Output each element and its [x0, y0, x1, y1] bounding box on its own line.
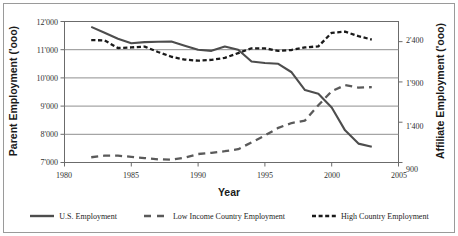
legend-item-us-employment: U.S. Employment [29, 212, 117, 221]
legend-label-low-income-country-employment: Low Income Country Employment [173, 212, 285, 221]
legend-label-high-country-employment: High Country Employment [341, 212, 429, 221]
bottom-axis-ticks [65, 163, 399, 167]
plot-area [0, 0, 458, 236]
legend-item-low-income-country-employment: Low Income Country Employment [143, 212, 285, 221]
left-axis-ticks [61, 22, 65, 163]
legend-swatch-solid [29, 212, 55, 220]
legend-swatch-short-dash [311, 212, 337, 220]
plot-frame [65, 22, 399, 163]
legend-swatch-long-dash [143, 212, 169, 220]
legend-item-high-country-employment: High Country Employment [311, 212, 429, 221]
chart-figure: Parent Employment ('ooo) Affiliate Emplo… [0, 0, 458, 236]
right-axis-ticks [399, 42, 403, 163]
legend-label-us-employment: U.S. Employment [59, 212, 117, 221]
chart-legend: U.S. Employment Low Income Country Emplo… [0, 206, 458, 226]
